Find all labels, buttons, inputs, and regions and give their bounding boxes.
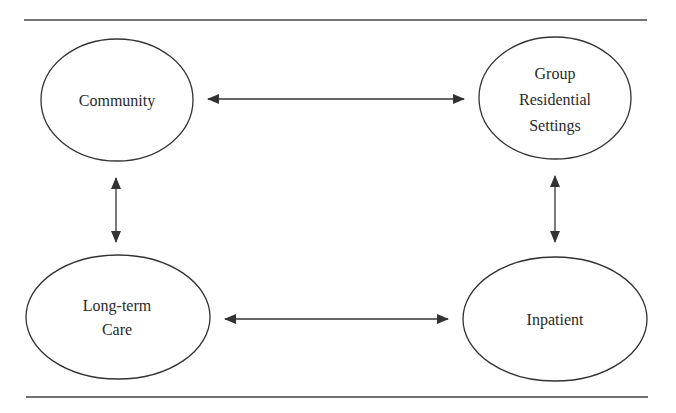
node-label: Group — [535, 65, 576, 83]
node-label: Long-term — [83, 297, 152, 315]
node-label: Inpatient — [527, 311, 584, 329]
node-label: Residential — [519, 91, 592, 108]
node-group-residential-settings: Group Residential Settings — [479, 37, 631, 159]
node-label: Community — [79, 92, 155, 110]
node-inpatient: Inpatient — [463, 257, 647, 381]
node-label: Care — [102, 321, 132, 338]
node-community: Community — [41, 39, 193, 161]
node-label: Settings — [529, 117, 581, 135]
node-long-term-care: Long-term Care — [26, 255, 210, 379]
care-settings-diagram: Community Group Residential Settings Lon… — [0, 0, 676, 413]
